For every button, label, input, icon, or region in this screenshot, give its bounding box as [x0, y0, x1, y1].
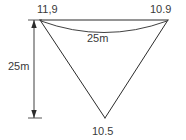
vertex-label-top-left: 11,9 — [37, 4, 58, 15]
top-edge-curve — [41, 21, 167, 33]
arrow-up-icon — [31, 20, 36, 28]
vertex-label-bottom: 10.5 — [92, 126, 113, 137]
height-dimension-line — [28, 20, 42, 118]
triangle-edge-right — [105, 20, 168, 118]
diagram-canvas: 11,9 10.9 10.5 25m 25m — [0, 0, 186, 140]
height-measure-label: 25m — [8, 61, 29, 72]
vertex-label-top-right: 10.9 — [150, 4, 171, 15]
top-span-measure-label: 25m — [87, 33, 108, 44]
arrow-down-icon — [31, 110, 36, 118]
